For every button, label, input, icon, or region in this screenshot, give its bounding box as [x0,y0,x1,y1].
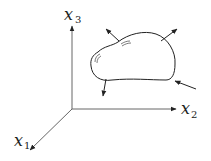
axis-label-x1: x 1 [14,131,30,151]
svg-text:2: 2 [191,109,197,120]
force-arrow-upper-right [161,29,177,41]
svg-text:x: x [14,131,23,150]
axis-label-x2: x 2 [181,99,197,120]
svg-text:3: 3 [75,14,81,25]
svg-text:x: x [64,5,73,24]
svg-text:1: 1 [24,140,30,151]
force-arrow-down [103,79,106,96]
force-arrow-inward [175,81,196,89]
x1-axis [30,109,72,150]
svg-text:x: x [181,99,190,118]
axis-label-x3: x 3 [64,5,81,25]
force-arrow-upper-left [106,29,119,41]
coordinate-diagram: x 3 x 2 x 1 [0,0,211,161]
